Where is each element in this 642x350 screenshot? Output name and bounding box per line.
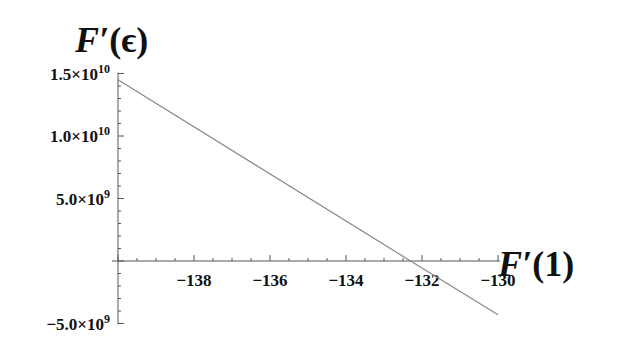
x-tick-label: −134: [328, 271, 364, 290]
y-axis-title: F′(ϵ): [74, 20, 148, 60]
y-tick-label: 1.5×1010: [50, 62, 110, 84]
series-line: [118, 80, 498, 315]
y-tick-label: −5.0×109: [46, 312, 110, 334]
x-tick-label: −138: [176, 271, 211, 290]
line-chart: F′(ϵ) F′(1) −138−136−134−132−130−5.0×109…: [0, 0, 642, 350]
x-tick-label: −132: [404, 271, 439, 290]
axes: [112, 73, 500, 325]
y-tick-label: 5.0×109: [56, 187, 110, 209]
x-tick-label: −136: [252, 271, 287, 290]
x-tick-label: −130: [480, 271, 515, 290]
tick-labels: −138−136−134−132−130−5.0×1095.0×1091.0×1…: [46, 62, 515, 334]
y-tick-label: 1.0×1010: [50, 124, 110, 146]
data-series: [118, 80, 498, 315]
